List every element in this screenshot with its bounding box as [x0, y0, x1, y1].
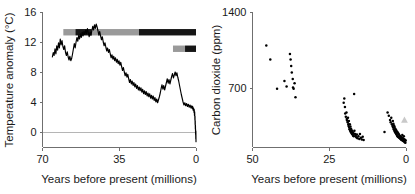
co2-data-point: [285, 85, 288, 88]
co2-data-point: [353, 130, 356, 133]
figure-container: 1612840 70350 Temperature anomaly (°C) Y…: [0, 0, 415, 194]
co2-data-point: [353, 93, 356, 96]
co2-data-point: [388, 114, 391, 117]
co2-data-point: [390, 117, 393, 120]
co2-data-point: [389, 119, 392, 122]
temperature-y-axis: 1612840: [24, 6, 42, 147]
co2-data-point: [359, 133, 362, 136]
co2-data-point: [383, 131, 386, 134]
co2-data-point: [292, 87, 295, 90]
x-tick-label: 25: [323, 153, 335, 165]
x-tick-label: 0: [193, 153, 199, 165]
co2-data-point: [349, 125, 352, 128]
y-tick-label: 12: [24, 36, 36, 48]
x-tick-labels: 50250: [246, 153, 409, 165]
x-tick-marks: [253, 148, 407, 152]
co2-data-point: [362, 139, 365, 142]
y-tick-labels: 1400700: [222, 6, 246, 94]
co2-data-point: [294, 96, 297, 99]
co2-data-point: [348, 120, 351, 123]
co2-scatter-points: [265, 44, 407, 144]
x-tick-marks: [43, 148, 197, 152]
co2-special-markers: [401, 117, 408, 123]
co2-data-point: [289, 58, 292, 61]
co2-data-point: [361, 135, 364, 138]
y-tick-label: 4: [30, 96, 36, 108]
co2-data-point: [290, 65, 293, 68]
modern-co2-marker: [401, 117, 408, 123]
y-tick-label: 8: [30, 66, 36, 78]
upper-climate-state-bar-segment: [63, 29, 75, 35]
x-axis-title: Years before present (millions): [251, 173, 407, 185]
co2-data-point: [404, 139, 407, 142]
temperature-x-axis: 70350: [36, 148, 199, 166]
co2-data-point: [293, 82, 296, 85]
co2-chart-svg: 1400700 50250 Carbon dioxide (ppm) Years…: [207, 0, 415, 194]
upper-climate-state-bar-segment: [139, 29, 196, 35]
co2-data-point: [357, 135, 360, 138]
lower-climate-state-bar-segment: [185, 46, 196, 52]
co2-data-point: [404, 141, 407, 144]
x-tick-label: 35: [113, 153, 125, 165]
y-tick-label: 700: [228, 82, 246, 94]
y-tick-label: 0: [30, 126, 36, 138]
temperature-chart-svg: 1612840 70350 Temperature anomaly (°C) Y…: [0, 0, 208, 194]
co2-data-point: [343, 97, 346, 100]
x-tick-labels: 70350: [36, 153, 199, 165]
temperature-anomaly-line: [52, 24, 196, 142]
co2-data-point: [386, 111, 389, 114]
lower-climate-state-bar-segment: [173, 46, 185, 52]
co2-data-point: [283, 80, 286, 83]
co2-data-point: [265, 44, 268, 47]
co2-data-point: [347, 117, 350, 120]
y-axis-title: Temperature anomaly (°C): [3, 12, 15, 147]
y-axis-title: Carbon dioxide (ppm): [210, 25, 222, 136]
y-tick-label: 1400: [222, 6, 246, 18]
co2-data-point: [276, 87, 279, 90]
panel-temperature-anomaly: 1612840 70350 Temperature anomaly (°C) Y…: [0, 0, 208, 194]
co2-data-point: [289, 53, 292, 56]
co2-data-point: [349, 123, 352, 126]
co2-data-point: [392, 120, 395, 123]
x-tick-label: 50: [246, 153, 258, 165]
co2-data-point: [345, 111, 348, 114]
co2-data-point: [342, 101, 345, 104]
co2-data-point: [389, 121, 392, 124]
panel-carbon-dioxide: 1400700 50250 Carbon dioxide (ppm) Years…: [207, 0, 415, 194]
x-tick-label: 70: [36, 153, 48, 165]
co2-data-point: [291, 78, 294, 81]
x-axis-title: Years before present (millions): [41, 173, 197, 185]
co2-data-point: [403, 135, 406, 138]
y-tick-labels: 1612840: [24, 6, 36, 138]
co2-data-point: [345, 116, 348, 119]
co2-data-point: [344, 106, 347, 109]
co2-data-point: [291, 71, 294, 74]
y-tick-label: 16: [24, 6, 36, 18]
co2-x-axis: 50250: [246, 148, 409, 166]
x-tick-label: 0: [403, 153, 409, 165]
co2-data-point: [269, 58, 272, 61]
co2-y-axis: 1400700: [222, 6, 252, 147]
